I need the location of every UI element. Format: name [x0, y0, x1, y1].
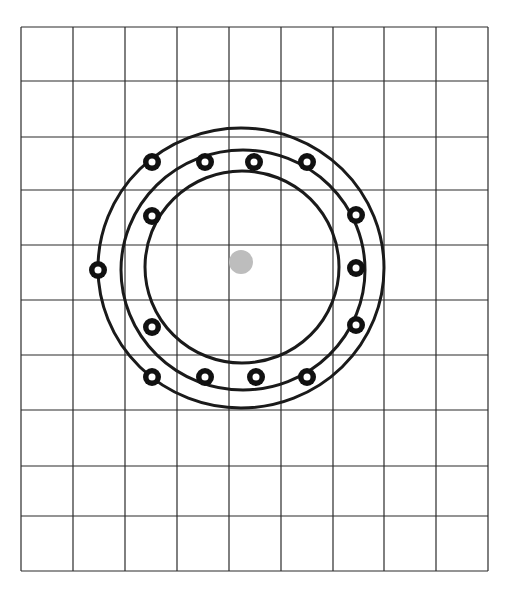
- ring-node-icon: [196, 368, 214, 386]
- ring-node-icon: [143, 318, 161, 336]
- grid: [21, 27, 488, 571]
- ring-nodes: [89, 153, 365, 386]
- ring-diagram: [0, 0, 505, 596]
- ring-node-icon: [143, 368, 161, 386]
- ring-node-icon: [298, 368, 316, 386]
- ring-node-icon: [143, 207, 161, 225]
- ring-node-icon: [347, 316, 365, 334]
- ring-node-icon: [347, 206, 365, 224]
- ring-node-icon: [347, 259, 365, 277]
- ring-node-icon: [89, 261, 107, 279]
- ring-node-icon: [247, 368, 265, 386]
- ring-node-icon: [298, 153, 316, 171]
- ring-node-icon: [196, 153, 214, 171]
- ring-node-icon: [245, 153, 263, 171]
- center-dot: [229, 250, 253, 274]
- ring-node-icon: [143, 153, 161, 171]
